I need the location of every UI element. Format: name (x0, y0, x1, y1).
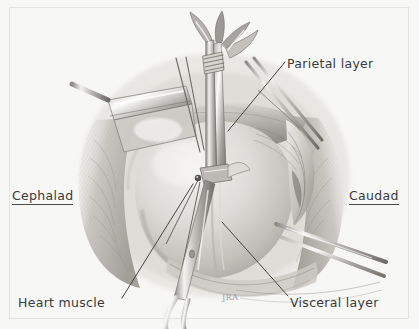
surgical-illustration-art (0, 0, 419, 329)
label-heart-muscle: Heart muscle (18, 295, 105, 310)
artist-signature: JRA (222, 293, 239, 303)
label-caudad: Caudad (349, 188, 399, 205)
illustration-figure: Cephalad Caudad Parietal layer Heart mus… (0, 0, 419, 329)
label-visceral-layer: Visceral layer (290, 295, 379, 310)
label-parietal-layer: Parietal layer (287, 56, 374, 71)
label-cephalad: Cephalad (12, 188, 73, 205)
